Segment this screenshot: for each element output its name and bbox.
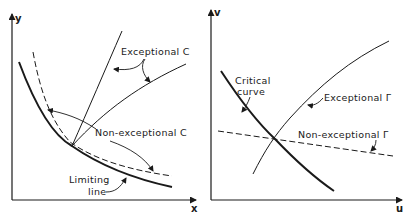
left-panel: y x Exceptional C Non-exceptional C Limi… xyxy=(12,13,198,214)
v-axis-label: v xyxy=(214,7,221,18)
exceptional-gamma-pointer xyxy=(308,98,323,105)
diagram-canvas: y x Exceptional C Non-exceptional C Limi… xyxy=(0,0,408,214)
critical-curve-label-1: Critical xyxy=(235,75,271,86)
x-axis-label-left: x xyxy=(191,203,198,214)
right-panel: v u Critical curve Exceptional Γ Non-exc… xyxy=(211,7,403,214)
exceptional-gamma-curve xyxy=(253,41,389,174)
non-exceptional-c-label: Non-exceptional C xyxy=(95,127,187,138)
exceptional-c-pointer-steep xyxy=(114,59,144,70)
limiting-line-label-2: line xyxy=(88,186,106,197)
non-exceptional-c-pointer-upper xyxy=(48,110,96,129)
y-axis-label-left: y xyxy=(15,13,22,24)
exceptional-c-pointer-shallow xyxy=(143,59,150,82)
non-exceptional-gamma-label: Non-exceptional Γ xyxy=(298,129,389,140)
non-exceptional-gamma-pointer xyxy=(371,140,376,151)
limiting-line-label-1: Limiting xyxy=(69,174,110,185)
exceptional-gamma-label: Exceptional Γ xyxy=(324,92,392,103)
non-exceptional-c-pointer-lower xyxy=(110,141,153,171)
exceptional-c-label: Exceptional C xyxy=(121,46,190,57)
u-axis-label: u xyxy=(396,203,403,214)
critical-curve-label-2: curve xyxy=(237,86,265,97)
non-exceptional-c-curve xyxy=(33,52,172,176)
